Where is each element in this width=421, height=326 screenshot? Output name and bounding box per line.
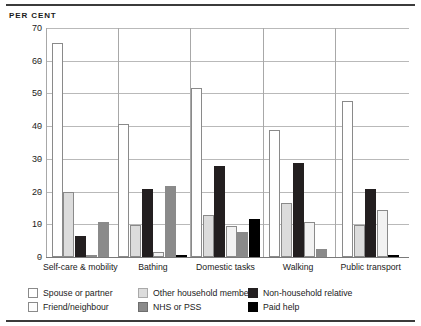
bar (203, 215, 214, 257)
bar (249, 219, 260, 257)
bar (214, 166, 225, 257)
legend-swatch-icon (28, 302, 38, 312)
bar (118, 124, 129, 257)
legend-item: Other household member (138, 288, 252, 298)
legend-item: Non-household relative (248, 288, 352, 298)
legend-swatch-icon (28, 288, 38, 298)
y-tick-label-40: 40 (8, 121, 42, 131)
bar (269, 130, 280, 257)
legend-swatch-icon (248, 302, 258, 312)
bar (52, 43, 63, 257)
y-tickmark-60 (38, 61, 42, 62)
bar (63, 192, 74, 257)
legend-label: Non-household relative (263, 288, 352, 298)
bar (165, 186, 176, 257)
bar (176, 255, 187, 257)
bar (304, 222, 315, 257)
bar (354, 225, 365, 257)
y-tickmark-10 (38, 224, 42, 225)
bar (365, 189, 376, 257)
legend-label: Friend/neighbour (43, 302, 109, 312)
bar (191, 88, 202, 257)
bar (98, 222, 109, 257)
chart-legend: Spouse or partnerFriend/neighbourOther h… (28, 288, 416, 318)
legend-label: Other household member (153, 288, 252, 298)
bar (342, 101, 353, 257)
y-axis-tick-labels: 010203040506070 (4, 28, 42, 257)
bar (377, 210, 388, 257)
y-axis-title: PER CENT (9, 11, 57, 20)
y-tickmark-0 (38, 257, 42, 258)
top-divider (6, 4, 415, 6)
bar (293, 163, 304, 257)
y-tick-label-50: 50 (8, 88, 42, 98)
x-axis-label: Domestic tasks (196, 262, 255, 272)
legend-swatch-icon (248, 288, 258, 298)
gridline-0 (46, 257, 409, 258)
y-tick-label-30: 30 (8, 154, 42, 164)
x-axis-label: Public transport (341, 262, 401, 272)
bar-group (264, 28, 337, 257)
bar (130, 225, 141, 257)
bar (142, 189, 153, 257)
x-axis-label: Bathing (138, 262, 167, 272)
bar (153, 252, 164, 257)
y-tick-label-0: 0 (8, 252, 42, 262)
x-axis-label: Walking (283, 262, 314, 272)
bar (388, 255, 399, 257)
legend-label: Spouse or partner (43, 288, 113, 298)
y-tickmark-40 (38, 126, 42, 127)
chart-figure: PER CENT 010203040506070 Self-care & mob… (0, 0, 421, 326)
legend-label: NHS or PSS (153, 302, 201, 312)
bottom-divider (6, 320, 415, 322)
bar-group (336, 28, 409, 257)
legend-swatch-icon (138, 302, 148, 312)
plot-area (46, 28, 409, 257)
legend-swatch-icon (138, 288, 148, 298)
bar (75, 236, 86, 257)
x-axis-label: Self-care & mobility (43, 262, 118, 272)
y-axis-spine (46, 28, 47, 257)
legend-item: Friend/neighbour (28, 302, 109, 312)
y-tickmark-50 (38, 93, 42, 94)
y-tickmark-20 (38, 192, 42, 193)
bar (226, 226, 237, 257)
y-tick-label-20: 20 (8, 187, 42, 197)
legend-item: Paid help (248, 302, 299, 312)
bar (86, 255, 97, 257)
y-tick-label-60: 60 (8, 56, 42, 66)
bar (237, 232, 248, 257)
y-tick-label-70: 70 (8, 23, 42, 33)
legend-item: NHS or PSS (138, 302, 201, 312)
bar-group (119, 28, 192, 257)
bar (281, 203, 292, 257)
bar-group (46, 28, 119, 257)
legend-item: Spouse or partner (28, 288, 113, 298)
bar (316, 249, 327, 257)
y-tick-label-10: 10 (8, 219, 42, 229)
y-tickmark-30 (38, 159, 42, 160)
bar-group (191, 28, 264, 257)
legend-label: Paid help (263, 302, 299, 312)
